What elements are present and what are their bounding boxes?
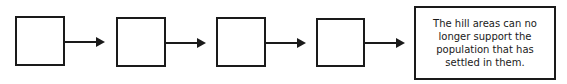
final-outcome-box: The hill areas can no longer support the… xyxy=(414,6,556,80)
arrow-4 xyxy=(365,42,403,44)
final-outcome-text: The hill areas can no longer support the… xyxy=(426,17,544,69)
arrow-3 xyxy=(266,42,304,44)
empty-step-box-3 xyxy=(216,17,266,67)
empty-step-box-4 xyxy=(316,18,365,67)
empty-step-box-2 xyxy=(116,17,166,67)
empty-step-box-1 xyxy=(15,16,65,66)
arrow-1 xyxy=(65,41,103,43)
arrow-2 xyxy=(166,42,204,44)
